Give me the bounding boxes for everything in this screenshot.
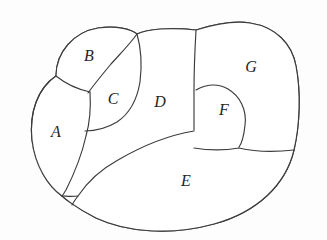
region-label-F: F [218, 101, 229, 118]
region-label-D: D [153, 93, 166, 110]
region-diagram: A B C D E F G [0, 0, 327, 240]
region-label-C: C [108, 90, 119, 107]
region-label-A: A [50, 123, 61, 140]
region-label-E: E [180, 172, 191, 189]
region-label-B: B [84, 47, 94, 64]
figure-root: A B C D E F G [0, 0, 327, 240]
region-faces [31, 22, 299, 231]
region-label-G: G [245, 58, 257, 75]
